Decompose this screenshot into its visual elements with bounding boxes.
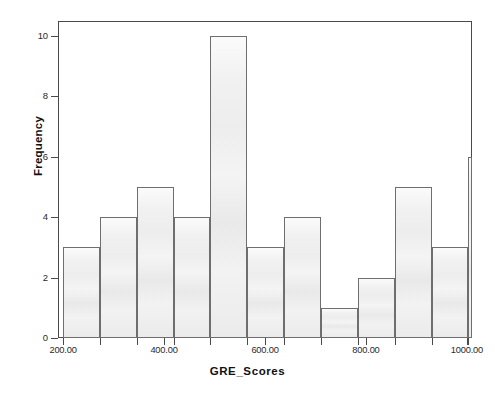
x-axis-tick (358, 338, 359, 345)
x-axis-major-tick (467, 338, 468, 345)
histogram-bar (63, 247, 100, 338)
x-axis-major-tick (63, 338, 64, 345)
x-axis-tick (100, 338, 101, 345)
x-axis-tick-label: 1000.00 (432, 345, 495, 355)
x-axis-tick (137, 338, 138, 345)
y-axis-title: Frequency (32, 86, 44, 206)
histogram-bar (358, 278, 395, 338)
histogram-bar (432, 247, 469, 338)
x-axis-major-tick (164, 338, 165, 345)
y-axis-tick (51, 36, 58, 37)
histogram-bar (468, 157, 472, 338)
x-axis-tick-label: 800.00 (331, 345, 401, 355)
histogram-bar (210, 36, 247, 338)
x-axis-tick (468, 338, 469, 345)
x-axis-tick (174, 338, 175, 345)
y-axis-tick (51, 157, 58, 158)
x-axis-tick (284, 338, 285, 345)
histogram-bar (395, 187, 432, 338)
y-axis-tick (51, 217, 58, 218)
histogram-bar (100, 217, 137, 338)
histogram-bar (247, 247, 284, 338)
y-axis-tick (51, 278, 58, 279)
x-axis-tick (247, 338, 248, 345)
x-axis-tick-label: 200.00 (28, 345, 98, 355)
histogram-bars (58, 21, 472, 338)
x-axis-title: GRE_Scores (0, 365, 495, 377)
y-axis-tick-label: 4 (28, 211, 48, 222)
x-axis-tick (321, 338, 322, 345)
y-axis-tick-label: 0 (28, 332, 48, 343)
x-axis-tick (432, 338, 433, 345)
histogram-figure: 0246810 200.00400.00600.00800.001000.00 … (0, 0, 495, 394)
x-axis-major-tick (366, 338, 367, 345)
x-axis-tick (210, 338, 211, 345)
y-axis-tick-label: 10 (28, 30, 48, 41)
histogram-bar (174, 217, 211, 338)
histogram-bar (321, 308, 358, 338)
y-axis-tick (51, 338, 58, 339)
x-axis-tick-label: 600.00 (230, 345, 300, 355)
x-axis-major-tick (265, 338, 266, 345)
x-axis-tick (395, 338, 396, 345)
histogram-bar (137, 187, 174, 338)
y-axis-tick-label: 2 (28, 272, 48, 283)
y-axis-tick (51, 96, 58, 97)
histogram-bar (284, 217, 321, 338)
x-axis-tick-label: 400.00 (129, 345, 199, 355)
